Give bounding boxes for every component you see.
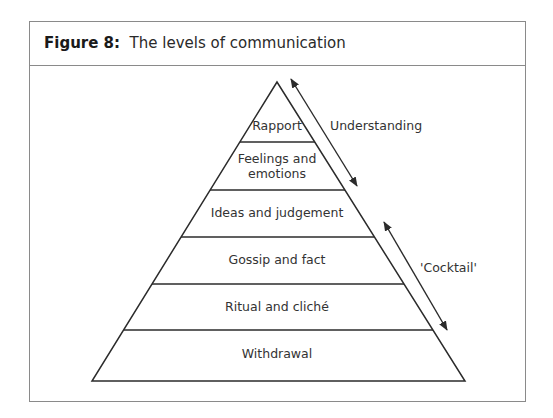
level-gossip-fact: Gossip and fact [187, 252, 367, 267]
cocktail-arrow [384, 222, 447, 330]
level-feelings-line2: emotions [207, 166, 347, 181]
level-ideas-judgement: Ideas and judgement [187, 205, 367, 220]
level-withdrawal: Withdrawal [187, 346, 367, 361]
level-ritual-cliche: Ritual and cliché [187, 299, 367, 314]
cocktail-label: 'Cocktail' [420, 260, 477, 275]
understanding-label: Understanding [330, 118, 422, 133]
level-feelings-emotions: Feelings and emotions [207, 151, 347, 181]
level-rapport: Rapport [237, 118, 317, 133]
level-feelings-line1: Feelings and [207, 151, 347, 166]
